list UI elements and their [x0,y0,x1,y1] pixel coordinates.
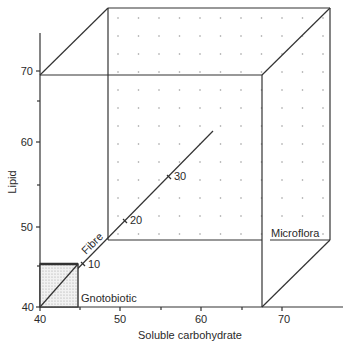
x-tick-50: 50 [114,313,126,325]
x-axis-label: Soluble carbohydrate [138,329,242,341]
fibre-label: Fibre [79,230,105,256]
z-tick-10: 10 [88,258,100,270]
y-tick-40: 40 [22,301,34,313]
x-tick-60: 60 [195,313,207,325]
gnotobiotic-box [40,264,78,307]
microflora-label: Microflora [271,227,320,239]
x-tick-40: 40 [34,313,46,325]
x-axis [40,307,343,311]
y-tick-70: 70 [21,65,33,77]
z-tick-30: 30 [174,170,186,182]
x-tick-70: 70 [278,313,290,325]
z-tick-20: 20 [130,214,142,226]
gnotobiotic-label: Gnotobiotic [81,292,137,304]
y-tick-60: 60 [21,136,33,148]
diagram-canvas: 70 60 50 40 40 50 60 70 Soluble carbohyd… [0,0,347,345]
y-tick-50: 50 [21,221,33,233]
y-axis-label: Lipid [6,170,18,193]
back-face-dot-grid [117,17,324,235]
